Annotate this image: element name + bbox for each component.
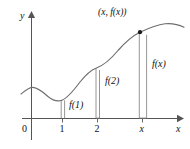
x-tick-label-1: 1 [60, 124, 65, 134]
point-annotation-label: (x, f(x)) [98, 8, 126, 18]
y-axis-arrowhead [28, 11, 35, 18]
ordinate-bracket-f1 [61, 100, 64, 118]
ordinate-bracket-fx [139, 32, 146, 118]
point-marker-x-fx [138, 30, 142, 34]
ordinate-label-f2: f(2) [105, 76, 119, 86]
y-axis-label: y [20, 11, 24, 21]
x-axis-tick-marks [63, 119, 143, 123]
origin-label: 0 [22, 124, 27, 134]
ordinate-label-fx: f(x) [152, 59, 166, 69]
function-graph-figure: y x 0 1 2 x (x, f(x)) f(1) f(2) f(x) [0, 0, 190, 149]
ordinate-label-f1: f(1) [69, 100, 83, 110]
x-tick-label-x: x [140, 124, 144, 134]
x-tick-label-2: 2 [95, 124, 100, 134]
ordinate-bracket-f2 [96, 68, 100, 118]
x-axis-arrowhead [177, 115, 184, 122]
axes-group [22, 11, 184, 140]
x-axis-label: x [176, 124, 180, 134]
